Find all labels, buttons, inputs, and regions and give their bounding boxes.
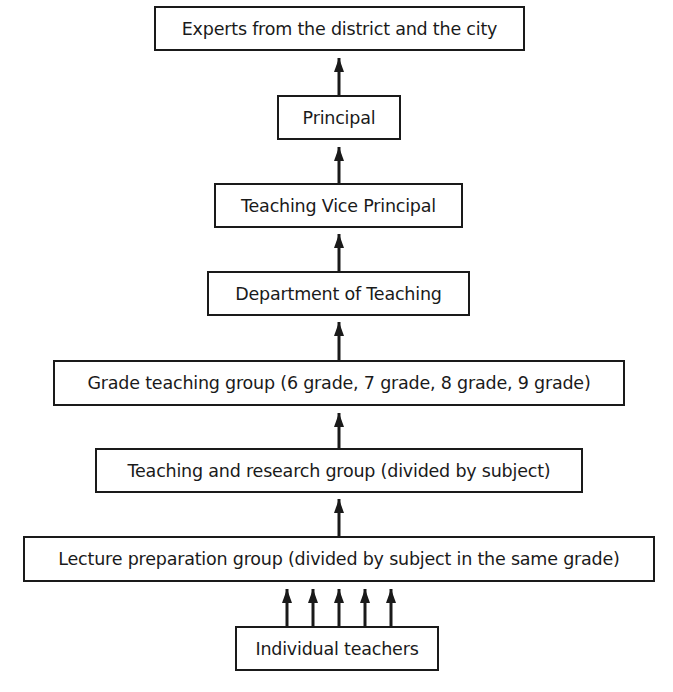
node-label: Teaching and research group (divided by … bbox=[128, 461, 551, 481]
node-label: Department of Teaching bbox=[235, 284, 441, 304]
node-department: Department of Teaching bbox=[207, 271, 470, 316]
node-label: Lecture preparation group (divided by su… bbox=[58, 549, 619, 569]
node-label: Teaching Vice Principal bbox=[241, 196, 436, 216]
node-label: Grade teaching group (6 grade, 7 grade, … bbox=[87, 373, 590, 393]
node-label: Experts from the district and the city bbox=[182, 19, 498, 39]
node-experts: Experts from the district and the city bbox=[154, 6, 525, 51]
node-research-group: Teaching and research group (divided by … bbox=[95, 448, 583, 493]
node-grade-group: Grade teaching group (6 grade, 7 grade, … bbox=[53, 360, 625, 406]
node-principal: Principal bbox=[277, 95, 401, 140]
node-lecture-group: Lecture preparation group (divided by su… bbox=[23, 536, 655, 582]
node-vice-principal: Teaching Vice Principal bbox=[214, 183, 463, 228]
node-label: Individual teachers bbox=[255, 639, 418, 659]
node-teachers: Individual teachers bbox=[235, 626, 439, 671]
node-label: Principal bbox=[303, 108, 376, 128]
